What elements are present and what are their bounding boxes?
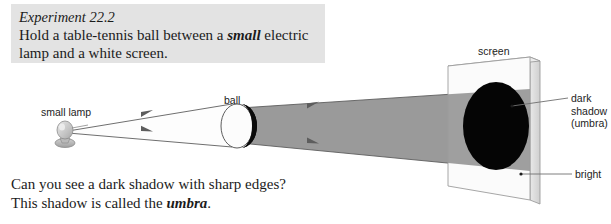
- label-dark-shadow-line3: (umbra): [571, 117, 608, 130]
- figure-root: Experiment 22.2 Hold a table-tennis ball…: [0, 0, 611, 224]
- instruction-box: Experiment 22.2 Hold a table-tennis ball…: [11, 4, 325, 63]
- instruction-line1-part2: electric: [261, 27, 309, 43]
- label-dark-shadow-line2: shadow: [571, 105, 608, 118]
- label-dark-shadow-line1: dark: [571, 92, 608, 105]
- question-line2-bold: umbra: [166, 195, 207, 211]
- experiment-title: Experiment 22.2: [19, 9, 317, 26]
- question-line1: Can you see a dark shadow with sharp edg…: [11, 176, 286, 192]
- instruction-line1-part1: Hold a table-tennis ball between a: [19, 27, 227, 43]
- label-small-lamp: small lamp: [41, 106, 91, 119]
- question-line2-part1: This shadow is called the: [11, 195, 166, 211]
- umbra-shadow-disc: [463, 82, 529, 170]
- table-tennis-ball: [221, 104, 257, 148]
- lamp-leader-line: [72, 125, 88, 128]
- label-bright: bright: [575, 168, 601, 181]
- question-text: Can you see a dark shadow with sharp edg…: [11, 175, 371, 212]
- instruction-line1-bold: small: [227, 27, 260, 43]
- label-dark-shadow: dark shadow (umbra): [571, 92, 608, 130]
- instruction-line2: lamp and a white screen.: [19, 45, 168, 61]
- small-lamp: [55, 121, 75, 148]
- label-screen: screen: [478, 45, 510, 58]
- question-line2-part2: .: [207, 195, 211, 211]
- instruction-text: Hold a table-tennis ball between a small…: [19, 26, 317, 62]
- label-ball: ball: [224, 94, 240, 107]
- light-cone: [68, 104, 232, 147]
